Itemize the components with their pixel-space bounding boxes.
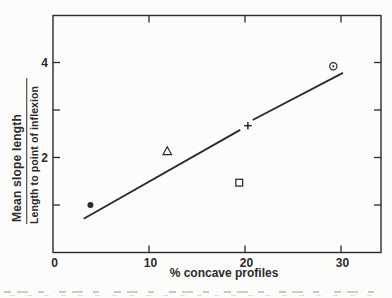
y-axis-label: Mean slope length Length to point of inf… <box>6 72 44 224</box>
fraction-bar <box>26 78 27 224</box>
x-tick-label: 30 <box>336 256 350 270</box>
scatter-plot-figure: 240102030 Mean slope length Length to po… <box>0 0 392 298</box>
y-axis-label-numerator: Mean slope length <box>10 72 24 224</box>
y-axis-label-denominator: Length to point of inflexion <box>28 72 40 224</box>
data-point-open-square <box>236 179 243 186</box>
data-point-circled-dot <box>332 65 334 67</box>
y-axis-label-fraction: Mean slope length Length to point of inf… <box>10 72 40 224</box>
x-axis-label: % concave profiles <box>128 266 320 280</box>
cropped-caption-fragment <box>10 295 372 297</box>
trend-line-segment <box>84 130 240 219</box>
y-tick-label: 4 <box>41 56 48 70</box>
plot-frame <box>53 16 381 253</box>
x-tick-label: 0 <box>51 256 58 270</box>
cropped-caption-fragment <box>4 291 386 293</box>
data-point-filled-circle <box>87 202 93 208</box>
trend-line-segment <box>253 73 343 120</box>
plot-canvas: 240102030 <box>0 0 392 298</box>
data-point-open-triangle <box>163 147 171 155</box>
